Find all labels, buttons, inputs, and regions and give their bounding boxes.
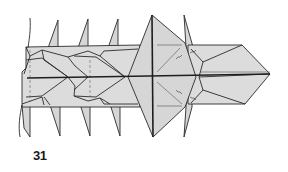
bottom-spike-0 <box>22 105 30 137</box>
step-number: 31 <box>33 148 46 163</box>
bottom-spike-3 <box>110 104 120 136</box>
bottom-spike-2 <box>80 104 90 136</box>
left-edge-top <box>28 18 30 48</box>
origami-diagram <box>0 0 288 172</box>
top-spike-1 <box>48 20 58 48</box>
left-edge-bottom <box>19 105 22 137</box>
bottom-spikes <box>22 104 120 137</box>
top-spike-2 <box>78 19 88 50</box>
bottom-spike-1 <box>50 105 60 136</box>
